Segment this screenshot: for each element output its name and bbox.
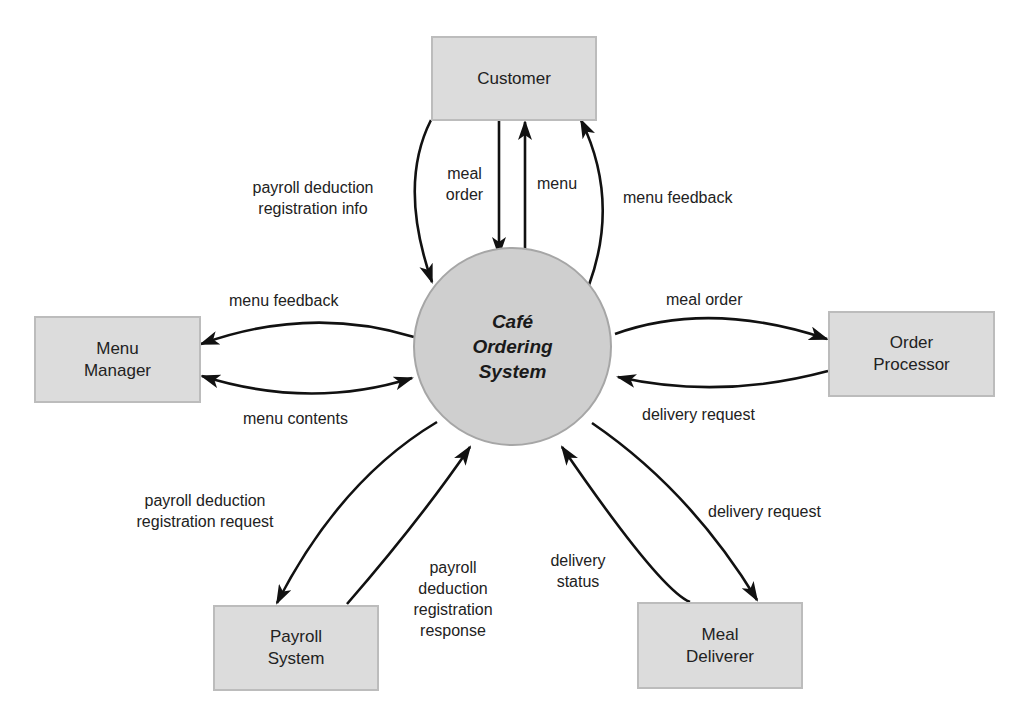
label-customer-menu-feedback: menu feedback — [623, 187, 732, 208]
entity-payroll-system: Payroll System — [213, 605, 379, 691]
label-op-meal-order: meal order — [666, 289, 742, 310]
label-ps-registration-response: payroll deduction registration response — [398, 557, 508, 641]
entity-menu-manager-label: Menu Manager — [84, 338, 151, 382]
label-customer-meal-order: meal order — [437, 163, 492, 205]
arrow-customer-menu-feedback — [581, 120, 603, 285]
entity-menu-manager: Menu Manager — [34, 316, 201, 403]
arrow-mm-menu-contents — [202, 376, 412, 394]
entity-payroll-system-label: Payroll System — [268, 626, 325, 670]
label-ps-registration-request: payroll deduction registration request — [110, 490, 300, 532]
context-diagram: Café Ordering System Customer Menu Manag… — [0, 0, 1024, 714]
process-label: Café Ordering System — [472, 309, 552, 384]
entity-order-processor-label: Order Processor — [873, 332, 950, 376]
process-cafe-ordering-system: Café Ordering System — [413, 247, 612, 446]
entity-customer: Customer — [431, 36, 597, 121]
label-mm-menu-contents: menu contents — [243, 408, 348, 429]
entity-order-processor: Order Processor — [828, 311, 995, 397]
arrow-mm-menu-feedback — [201, 323, 414, 344]
label-mm-menu-feedback: menu feedback — [229, 290, 338, 311]
label-md-delivery-request: delivery request — [708, 501, 821, 522]
label-customer-payroll-info: payroll deduction registration info — [228, 177, 398, 219]
entity-customer-label: Customer — [477, 68, 551, 90]
arrow-op-meal-order — [615, 318, 827, 339]
label-op-delivery-request: delivery request — [642, 404, 755, 425]
label-system-menu: menu — [537, 173, 577, 194]
entity-meal-deliverer-label: Meal Deliverer — [686, 624, 754, 668]
arrow-customer-payroll-info — [415, 120, 432, 282]
entity-meal-deliverer: Meal Deliverer — [637, 602, 803, 689]
label-md-delivery-status: delivery status — [538, 550, 618, 592]
arrow-op-delivery-request — [618, 371, 828, 387]
